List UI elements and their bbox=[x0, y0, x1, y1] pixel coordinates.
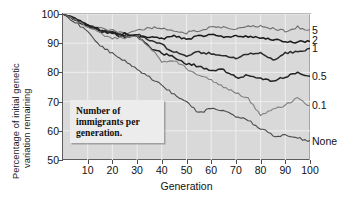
series-label-0-1: 0.1 bbox=[312, 100, 327, 111]
series-label-none: None bbox=[312, 136, 337, 147]
y-tick-label: 90 bbox=[28, 37, 59, 49]
y-tick-label: 100 bbox=[28, 8, 59, 20]
x-axis-tick-labels: 102030405060708090100 bbox=[63, 160, 310, 182]
x-axis-title: Generation bbox=[63, 180, 310, 192]
series-label-1: 1 bbox=[312, 43, 318, 54]
annotation-box: Number of immigrants per generation. bbox=[70, 100, 164, 143]
y-tick-label: 50 bbox=[28, 154, 59, 166]
y-axis-tick-labels: 1009080706050 bbox=[28, 0, 59, 201]
y-tick-label: 60 bbox=[28, 125, 59, 137]
y-tick-mark bbox=[58, 102, 63, 103]
y-tick-mark bbox=[58, 72, 63, 73]
y-tick-mark bbox=[58, 43, 63, 44]
y-tick-mark bbox=[58, 160, 63, 161]
y-axis-title: Percentage of initial genetic variation … bbox=[0, 0, 26, 201]
y-tick-label: 80 bbox=[28, 66, 59, 78]
series-label-0-5: 0.5 bbox=[312, 71, 327, 82]
y-tick-mark bbox=[58, 14, 63, 15]
y-tick-mark bbox=[58, 131, 63, 132]
y-axis-title-line-1: Percentage of initial genetic bbox=[11, 63, 21, 179]
y-tick-label: 70 bbox=[28, 96, 59, 108]
genetic-variation-line-chart: Percentage of initial genetic variation … bbox=[0, 0, 363, 201]
series-end-labels: 5210.50.1None bbox=[312, 0, 363, 201]
